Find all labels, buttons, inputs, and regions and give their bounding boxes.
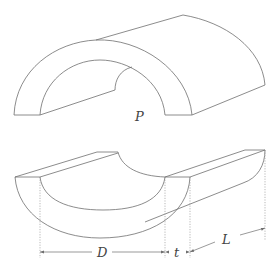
lower-half-shell (15, 150, 265, 238)
label-length: L (221, 232, 231, 247)
label-center-point: P (134, 109, 144, 124)
label-diameter: D (96, 245, 108, 260)
dimension-l: L (190, 228, 265, 252)
label-thickness: t (174, 245, 180, 260)
dimension-d: D (40, 245, 165, 260)
dimension-t: t (165, 245, 190, 260)
upper-half-shell (14, 15, 265, 115)
bearing-diagram: D t L P (0, 0, 275, 267)
